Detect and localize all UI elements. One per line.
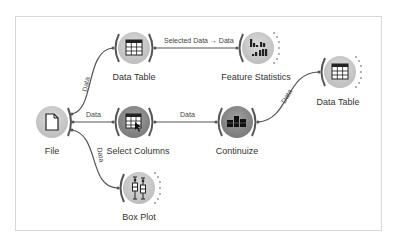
link-file-to-data-table[interactable]: Data — [72, 48, 113, 114]
output-dots-icon — [355, 56, 362, 88]
link-label: Selected Data → Data — [164, 37, 234, 44]
link-label: Data — [180, 111, 195, 118]
node-label-data-table: Data Table — [113, 72, 156, 82]
node-box-plot[interactable] — [117, 172, 162, 204]
node-label-data-table-output: Data Table — [317, 97, 360, 107]
link-select-columns-to-continuize[interactable]: Data — [155, 111, 216, 122]
node-label-select-columns: Select Columns — [106, 146, 169, 156]
link-file-to-box-plot[interactable]: Data — [72, 130, 118, 188]
output-dots-icon — [154, 172, 161, 204]
table-icon — [332, 64, 348, 79]
file-icon — [46, 114, 58, 130]
link-data-table-to-feature-statistics[interactable]: Selected Data → Data — [155, 37, 237, 48]
table-icon — [126, 40, 142, 55]
node-data-table[interactable] — [112, 32, 157, 64]
node-data-table-output[interactable] — [318, 56, 363, 88]
link-file-to-select-columns[interactable]: Data — [73, 111, 113, 122]
node-continuize[interactable] — [215, 106, 260, 138]
node-file[interactable] — [36, 106, 75, 138]
node-select-columns[interactable] — [112, 106, 157, 138]
node-label-continuize: Continuize — [216, 146, 259, 156]
link-label: Data — [280, 88, 294, 104]
workflow-graph: Data Data Data Selected Data → Data Data… — [0, 0, 393, 244]
link-label: Data — [96, 147, 105, 163]
link-label: Data — [81, 76, 90, 92]
link-label: Data — [86, 111, 101, 118]
node-label-file: File — [45, 146, 60, 156]
node-label-feature-statistics: Feature Statistics — [221, 72, 291, 82]
output-dots-icon — [273, 32, 280, 64]
node-feature-statistics[interactable] — [236, 32, 281, 64]
node-label-box-plot: Box Plot — [122, 212, 156, 222]
